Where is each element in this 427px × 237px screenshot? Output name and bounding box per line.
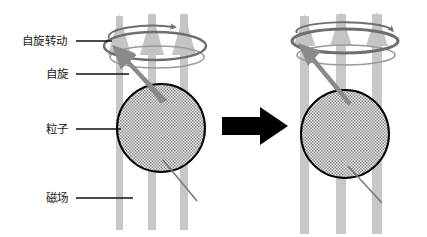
right-panel — [292, 12, 398, 234]
label-spin: 自旋 — [46, 67, 69, 81]
label-magnetic-field: 磁场 — [46, 191, 69, 205]
label-particle: 粒子 — [46, 122, 69, 136]
spin-precession-figure: 自旋转动 自旋 粒子 磁场 — [0, 0, 427, 237]
transition-arrow-shape — [222, 107, 288, 145]
transition-arrow — [222, 107, 288, 145]
label-spin-precession: 自旋转动 — [22, 34, 68, 48]
diagram-canvas: 自旋转动 自旋 粒子 磁场 — [0, 0, 427, 237]
particle-sphere — [301, 90, 389, 178]
